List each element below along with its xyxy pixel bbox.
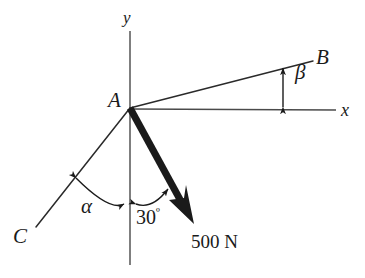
force-diagram-figure: A B C x y α β 30º 500 N xyxy=(0,0,365,278)
label-angle-alpha: α xyxy=(81,196,92,217)
angle-30-arc xyxy=(136,189,168,205)
line-ab xyxy=(130,61,313,108)
diagram-canvas xyxy=(0,0,365,278)
label-axis-x: x xyxy=(341,101,349,119)
label-angle-30deg: 30º xyxy=(136,206,160,227)
degree-symbol-icon: º xyxy=(156,205,160,219)
label-force-magnitude: 500 N xyxy=(191,232,238,251)
angle-30-value: 30 xyxy=(136,206,156,228)
x-axis-line xyxy=(130,109,336,110)
label-axis-y: y xyxy=(123,9,131,26)
label-angle-beta: β xyxy=(295,62,305,83)
label-point-b: B xyxy=(316,47,329,68)
label-point-a: A xyxy=(108,90,121,111)
label-point-c: C xyxy=(13,226,27,247)
force-vector-500n xyxy=(130,108,183,205)
